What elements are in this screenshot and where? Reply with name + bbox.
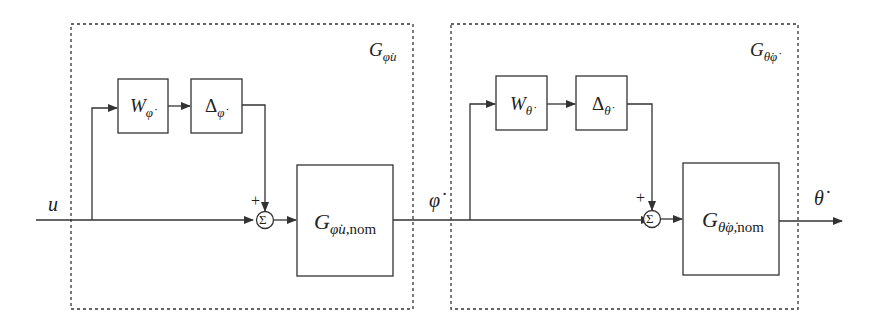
nominal-label-left-sub2: nom bbox=[349, 221, 376, 237]
branch-to-weight-left bbox=[92, 108, 117, 220]
weight-label-left: Wφ̇ bbox=[130, 96, 153, 115]
plus-sign-right: + bbox=[636, 190, 645, 206]
nominal-label-right-sub: θ̇φ̇, bbox=[718, 219, 737, 235]
plus-sign-left: + bbox=[251, 193, 260, 209]
nominal-label-left: Gφ̇u,nom bbox=[314, 211, 376, 233]
weight-label-right-main: W bbox=[510, 93, 526, 114]
intermediate-signal-label: φ̇ bbox=[429, 190, 440, 210]
group-label-right-sub: θ̇φ̇ bbox=[764, 49, 778, 64]
nominal-label-left-main: G bbox=[314, 209, 330, 234]
group-label-right: Gθ̇φ̇ bbox=[750, 40, 777, 59]
delta-label-right-sub: θ̇ bbox=[604, 103, 610, 118]
nominal-label-left-sub: φ̇u, bbox=[330, 221, 350, 237]
weight-label-left-main: W bbox=[130, 95, 146, 116]
delta-label-left: Δφ̇ bbox=[205, 96, 224, 115]
delta-label-right: Δθ̇ bbox=[592, 94, 611, 113]
group-label-right-main: G bbox=[750, 39, 764, 60]
group-label-left: Gφ̇u bbox=[369, 40, 396, 59]
nominal-label-right-sub2: nom bbox=[737, 219, 764, 235]
sum-symbol-right: Σ bbox=[646, 212, 654, 225]
output-signal-label: θ̇ bbox=[814, 188, 824, 208]
delta-label-left-main: Δ bbox=[205, 95, 217, 116]
input-signal-label: u bbox=[48, 194, 58, 214]
weight-label-left-sub: φ̇ bbox=[146, 105, 153, 120]
sum-symbol-left: Σ bbox=[259, 213, 267, 226]
group-label-left-sub: φ̇u bbox=[383, 49, 397, 64]
nominal-label-right: Gθ̇φ̇,nom bbox=[702, 209, 764, 231]
weight-label-right-sub: θ̇ bbox=[526, 103, 532, 118]
delta-label-left-sub: φ̇ bbox=[217, 105, 224, 120]
weight-label-right: Wθ̇ bbox=[510, 94, 532, 113]
delta-label-right-main: Δ bbox=[592, 93, 604, 114]
nominal-label-right-main: G bbox=[702, 207, 718, 232]
branch-to-weight-right bbox=[470, 104, 495, 220]
diagram-canvas bbox=[0, 0, 870, 329]
group-label-left-main: G bbox=[369, 39, 383, 60]
